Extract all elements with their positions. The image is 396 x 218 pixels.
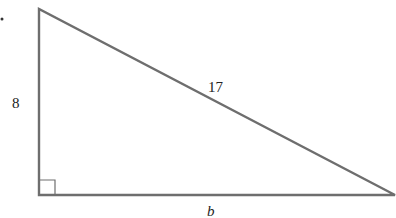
bullet-dot [1,18,4,21]
right-triangle [39,9,395,195]
hypotenuse-label: 17 [208,79,224,95]
right-angle-marker [39,180,55,195]
triangle-diagram: 8 17 b [0,0,396,218]
vertical-leg-label: 8 [12,95,20,111]
horizontal-leg-label: b [207,203,215,218]
